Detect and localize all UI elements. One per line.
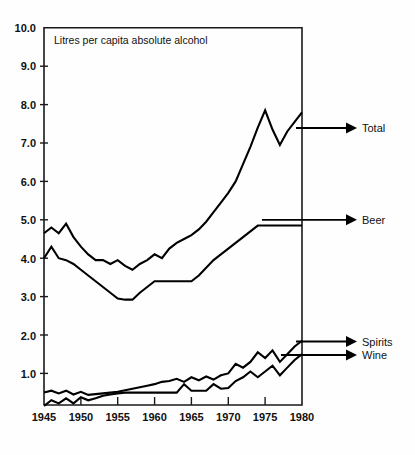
- y-tick-label: 9.0: [21, 60, 36, 72]
- beer-label: Beer: [362, 214, 386, 226]
- x-tick-label: 1960: [142, 411, 166, 423]
- y-tick-label: 5.0: [21, 214, 36, 226]
- annotation-beer: Beer: [262, 214, 386, 226]
- y-tick-label: 8.0: [21, 99, 36, 111]
- beer-arrow-icon: [346, 214, 357, 225]
- wine-label: Wine: [362, 349, 387, 361]
- y-tick-label: 1.0: [21, 368, 36, 380]
- y-tick-label: 7.0: [21, 137, 36, 149]
- annotation-spirits: Spirits: [296, 336, 393, 348]
- x-tick-label: 1950: [69, 411, 93, 423]
- x-tick-label: 1970: [216, 411, 240, 423]
- y-tick-label: 4.0: [21, 253, 36, 265]
- x-tick-label: 1975: [253, 411, 277, 423]
- x-axis-tick-labels: 1945 1950 1955 1960 1965 1970 1975 1980: [32, 411, 314, 423]
- x-tick-label: 1965: [179, 411, 203, 423]
- total-arrow-icon: [346, 123, 357, 134]
- series-line-total: [44, 110, 302, 269]
- y-axis-tick-labels: 10.0 9.0 8.0 7.0 6.0 5.0 4.0 3.0 2.0 1.0: [15, 22, 36, 380]
- y-tick-label: 6.0: [21, 176, 36, 188]
- y-tick-label: 10.0: [15, 22, 36, 34]
- series-line-beer: [44, 226, 302, 300]
- wine-arrow-icon: [346, 350, 357, 361]
- x-tick-label: 1945: [32, 411, 56, 423]
- x-axis-tickmarks: [81, 397, 265, 405]
- plot-title: Litres per capita absolute alcohol: [54, 34, 208, 46]
- plot-frame: [44, 28, 302, 405]
- spirits-label: Spirits: [362, 336, 393, 348]
- total-label: Total: [362, 122, 385, 134]
- annotation-total: Total: [296, 122, 385, 134]
- x-tick-label: 1980: [290, 411, 314, 423]
- spirits-arrow-icon: [346, 336, 357, 347]
- y-tick-label: 3.0: [21, 291, 36, 303]
- x-tick-label: 1955: [105, 411, 129, 423]
- chart-canvas: 10.0 9.0 8.0 7.0 6.0 5.0 4.0 3.0 2.0 1.0: [0, 0, 415, 455]
- y-tick-label: 2.0: [21, 330, 36, 342]
- series-line-spirits: [44, 341, 302, 395]
- alcohol-consumption-chart: 10.0 9.0 8.0 7.0 6.0 5.0 4.0 3.0 2.0 1.0: [0, 0, 415, 455]
